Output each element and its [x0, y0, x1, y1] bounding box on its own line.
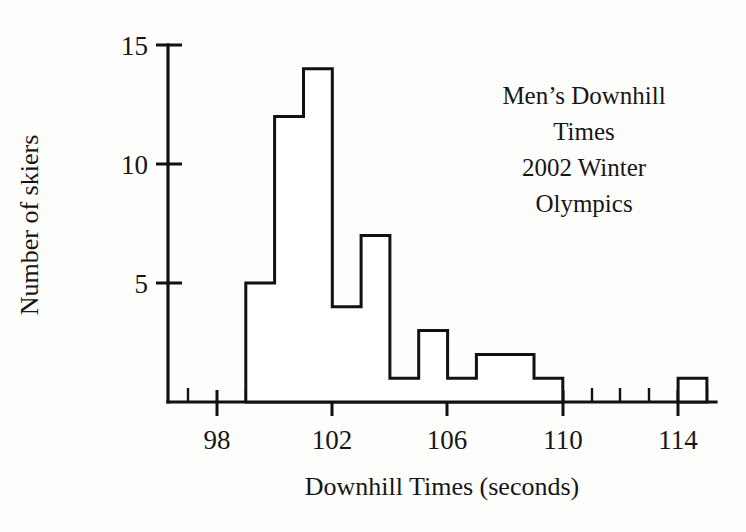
y-axis-title: Number of skiers	[15, 135, 44, 316]
histogram-figure: 15 10 5 98 10	[0, 0, 746, 532]
chart-title-line-1: Men’s Downhill	[502, 82, 665, 109]
y-tick-label-5: 5	[135, 269, 149, 299]
bar-group-99-110	[246, 69, 563, 402]
bar-114	[678, 378, 707, 402]
x-tick-label-110: 110	[543, 425, 583, 455]
histogram-chart: 15 10 5 98 10	[0, 0, 746, 532]
y-tick-label-10: 10	[121, 150, 148, 180]
x-tick-label-106: 106	[427, 425, 468, 455]
chart-title-line-2: Times	[553, 118, 615, 145]
chart-title: Men’s Downhill Times 2002 Winter Olympic…	[502, 82, 665, 217]
chart-title-line-3: 2002 Winter	[522, 154, 647, 181]
histogram-bars	[246, 69, 707, 402]
chart-title-line-4: Olympics	[535, 190, 632, 217]
x-axis-title: Downhill Times (seconds)	[305, 472, 579, 501]
y-tick-label-15: 15	[121, 31, 148, 61]
x-tick-label-102: 102	[312, 425, 353, 455]
x-tick-label-98: 98	[204, 425, 231, 455]
x-tick-label-114: 114	[658, 425, 698, 455]
